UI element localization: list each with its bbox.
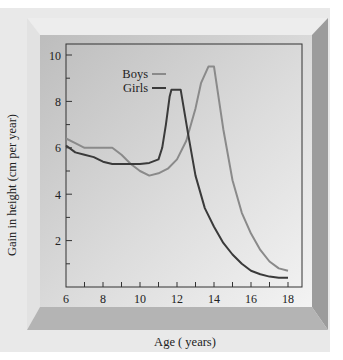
y-tick-label: 10: [49, 49, 61, 63]
y-tick-label: 4: [55, 188, 61, 202]
x-tick-label: 6: [63, 292, 69, 306]
legend-label-girls: Girls: [123, 81, 148, 95]
x-tick-label: 14: [208, 292, 220, 306]
x-axis-label: Age ( years): [154, 335, 216, 350]
chart-frame: 246810 681012141618 BoysGirls: [0, 0, 343, 360]
bevel-bottom: [27, 307, 328, 330]
legend-label-boys: Boys: [122, 67, 148, 81]
bevel-right: [312, 18, 328, 330]
x-tick-label: 18: [282, 292, 294, 306]
bevel-left: [27, 18, 40, 330]
y-tick-label: 2: [55, 234, 61, 248]
x-tick-label: 10: [134, 292, 146, 306]
y-axis-label: Gain in height (cm per year): [5, 114, 20, 256]
y-tick-label: 6: [55, 141, 61, 155]
x-tick-label: 8: [100, 292, 106, 306]
bevel-top: [27, 18, 328, 35]
x-tick-label: 12: [171, 292, 183, 306]
y-tick-label: 8: [55, 95, 61, 109]
x-tick-label: 16: [245, 292, 257, 306]
plot-face: [40, 35, 312, 307]
